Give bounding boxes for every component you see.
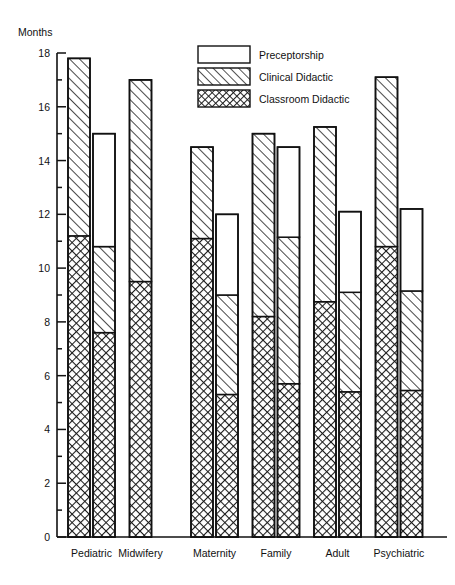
legend-swatch-clinical-didactic bbox=[198, 68, 250, 85]
bar-segment-preceptorship bbox=[93, 134, 115, 247]
bar-segment-classroom-didactic bbox=[278, 384, 300, 537]
y-tick-label: 6 bbox=[44, 370, 50, 382]
bar-segment-classroom-didactic bbox=[339, 392, 361, 537]
bar-segment-preceptorship bbox=[339, 212, 361, 293]
bar-segment-classroom-didactic bbox=[376, 247, 398, 537]
category-label: Midwifery bbox=[118, 547, 163, 559]
y-tick-label: 2 bbox=[44, 477, 50, 489]
bar-segment-clinical-didactic bbox=[339, 292, 361, 391]
category-label: Pediatric bbox=[71, 547, 112, 559]
bar-segment-clinical-didactic bbox=[68, 58, 90, 235]
bar-segment-preceptorship bbox=[278, 147, 300, 237]
bar-segment-clinical-didactic bbox=[93, 247, 115, 333]
bar-group bbox=[376, 77, 423, 537]
bar-segment-classroom-didactic bbox=[253, 317, 275, 537]
bar-segment-classroom-didactic bbox=[93, 333, 115, 537]
bar-segment-clinical-didactic bbox=[253, 134, 275, 317]
category-label: Psychiatric bbox=[374, 547, 425, 559]
bar-group bbox=[314, 127, 361, 537]
y-tick-label: 16 bbox=[38, 101, 50, 113]
legend-swatch-preceptorship bbox=[198, 46, 250, 63]
bar-segment-clinical-didactic bbox=[314, 127, 336, 302]
bar-segment-classroom-didactic bbox=[216, 394, 238, 537]
y-tick-label: 10 bbox=[38, 262, 50, 274]
bar-segment-classroom-didactic bbox=[68, 236, 90, 537]
category-labels: PediatricMidwiferyMaternityFamilyAdultPs… bbox=[71, 547, 424, 559]
bar-segment-classroom-didactic bbox=[314, 302, 336, 537]
y-tick-label: 14 bbox=[38, 155, 50, 167]
legend-label-classroom-didactic: Classroom Didactic bbox=[259, 93, 349, 105]
bar-segment-clinical-didactic bbox=[216, 295, 238, 394]
bar-segment-classroom-didactic bbox=[130, 282, 152, 537]
bar-segment-preceptorship bbox=[401, 209, 423, 291]
bar-segment-clinical-didactic bbox=[376, 77, 398, 246]
y-axis-ticks: 024681012141618 bbox=[38, 47, 66, 543]
bar-group bbox=[68, 58, 115, 537]
bar-segment-preceptorship bbox=[216, 214, 238, 295]
y-tick-label: 18 bbox=[38, 47, 50, 59]
bar-group bbox=[130, 80, 152, 537]
chart-legend: Preceptorship Clinical Didactic Classroo… bbox=[198, 46, 349, 107]
bar-segment-clinical-didactic bbox=[191, 147, 213, 238]
bars-layer bbox=[68, 58, 423, 537]
bar-segment-classroom-didactic bbox=[401, 390, 423, 537]
bar-chart: Months 024681012141618 PediatricMidwifer… bbox=[0, 0, 455, 585]
category-label: Adult bbox=[326, 547, 350, 559]
y-tick-label: 4 bbox=[44, 423, 50, 435]
bar-segment-clinical-didactic bbox=[278, 237, 300, 384]
category-label: Family bbox=[261, 547, 293, 559]
bar-group bbox=[191, 147, 238, 537]
bar-segment-classroom-didactic bbox=[191, 239, 213, 537]
legend-swatch-classroom-didactic bbox=[198, 90, 250, 107]
chart-canvas: Months 024681012141618 PediatricMidwifer… bbox=[0, 0, 455, 585]
y-tick-label: 0 bbox=[44, 531, 50, 543]
bar-segment-clinical-didactic bbox=[401, 291, 423, 390]
bar-segment-clinical-didactic bbox=[130, 80, 152, 282]
bar-group bbox=[253, 134, 300, 537]
legend-label-preceptorship: Preceptorship bbox=[259, 49, 324, 61]
category-label: Maternity bbox=[193, 547, 237, 559]
y-axis-title: Months bbox=[18, 26, 52, 38]
y-tick-label: 8 bbox=[44, 316, 50, 328]
y-tick-label: 12 bbox=[38, 208, 50, 220]
legend-label-clinical-didactic: Clinical Didactic bbox=[259, 71, 333, 83]
